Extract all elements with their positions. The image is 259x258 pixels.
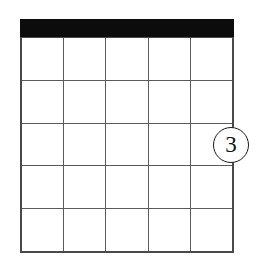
grid-cell[interactable] <box>22 81 64 123</box>
grid-container <box>20 19 234 253</box>
grid-cell[interactable] <box>22 209 64 251</box>
grid-cell[interactable] <box>106 124 148 166</box>
figure-canvas: 3 <box>0 0 259 258</box>
grid-header-bar <box>20 19 234 37</box>
grid-cell[interactable] <box>106 166 148 208</box>
table-row <box>22 38 232 81</box>
grid-cell[interactable] <box>149 124 191 166</box>
table-row <box>22 81 232 124</box>
grid-cell[interactable] <box>191 166 232 208</box>
grid-cell[interactable] <box>149 209 191 251</box>
table-row <box>22 209 232 251</box>
grid-cell[interactable] <box>64 166 106 208</box>
grid-cell[interactable] <box>106 38 148 80</box>
grid-cell[interactable] <box>64 38 106 80</box>
table-row <box>22 166 232 209</box>
grid-cell[interactable] <box>149 81 191 123</box>
grid-cell[interactable] <box>191 81 232 123</box>
grid-cell[interactable] <box>64 81 106 123</box>
callout-label: 3 <box>225 133 237 156</box>
grid-cell[interactable] <box>149 166 191 208</box>
table-row <box>22 124 232 167</box>
grid-body <box>20 37 234 253</box>
grid-cell[interactable] <box>149 38 191 80</box>
grid-cell[interactable] <box>64 209 106 251</box>
grid-cell[interactable] <box>106 209 148 251</box>
grid-cell[interactable] <box>22 166 64 208</box>
grid-cell[interactable] <box>22 124 64 166</box>
grid-cell[interactable] <box>64 124 106 166</box>
grid-cell[interactable] <box>22 38 64 80</box>
grid-cell[interactable] <box>191 38 232 80</box>
callout-marker-3: 3 <box>213 127 249 163</box>
grid-cell[interactable] <box>191 209 232 251</box>
grid-cell[interactable] <box>106 81 148 123</box>
